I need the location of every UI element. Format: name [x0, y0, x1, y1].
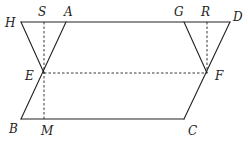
label-D: D [232, 10, 243, 24]
label-B: B [8, 122, 18, 136]
segment-HE [21, 22, 44, 73]
segment-GF [184, 22, 207, 73]
label-S: S [38, 5, 46, 19]
label-C: C [188, 124, 197, 138]
label-A: A [63, 5, 73, 19]
label-E: E [24, 69, 34, 83]
label-M: M [40, 124, 54, 138]
label-R: R [200, 5, 210, 19]
label-F: F [214, 69, 224, 83]
label-G: G [174, 5, 184, 19]
geometry-diagram: H S A G R D E F B M C [0, 0, 248, 152]
label-H: H [4, 16, 16, 30]
